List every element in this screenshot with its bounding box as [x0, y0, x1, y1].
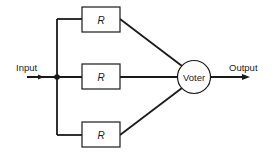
module-middle: R: [82, 64, 120, 89]
module-label: R: [97, 15, 104, 26]
input-arrow-icon: [38, 75, 44, 80]
module-top: R: [82, 7, 120, 32]
module-bottom: R: [82, 122, 120, 147]
input-label: Input: [16, 62, 37, 73]
output-label: Output: [229, 62, 258, 73]
junction-dot: [54, 74, 60, 80]
module-bottom-to-voter: [120, 88, 182, 135]
module-label: R: [97, 130, 104, 141]
tmr-diagram: R R R Voter Input Output: [0, 0, 275, 159]
module-top-to-voter: [120, 19, 182, 66]
output-arrow-icon: [242, 74, 250, 80]
voter-label: Voter: [183, 72, 205, 83]
module-label: R: [97, 72, 104, 83]
voter: Voter: [178, 61, 211, 94]
